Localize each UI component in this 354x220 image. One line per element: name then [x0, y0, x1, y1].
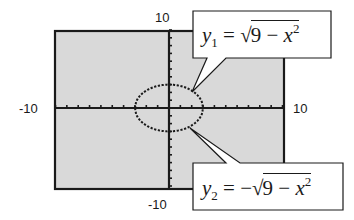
radicand-exp: 2	[305, 174, 312, 189]
ymin-label: -10	[148, 198, 167, 211]
radicand-const: 9	[263, 176, 274, 200]
eq-sub: 2	[211, 188, 218, 203]
eq-sign: =	[223, 23, 235, 47]
eq-var: y	[202, 23, 211, 47]
eq-neg: −	[240, 176, 252, 200]
radicand-var: x	[295, 176, 304, 200]
radicand: 9 − x2	[263, 173, 312, 199]
callout-upper-equation: y1 = √9 − x2	[202, 20, 299, 49]
radicand-minus: −	[278, 176, 290, 200]
callout-lower-equation: y2 = −√9 − x2	[202, 173, 311, 202]
xmax-label: 10	[293, 102, 307, 115]
xmin-label: -10	[19, 102, 38, 115]
ymax-label: 10	[155, 11, 169, 24]
radicand: 9 − x2	[251, 20, 300, 46]
eq-sign: =	[223, 176, 235, 200]
eq-var: y	[202, 176, 211, 200]
radicand-minus: −	[266, 23, 278, 47]
radicand-var: x	[284, 23, 293, 47]
radicand-const: 9	[251, 23, 262, 47]
eq-sub: 1	[211, 35, 218, 50]
radicand-exp: 2	[293, 21, 300, 36]
